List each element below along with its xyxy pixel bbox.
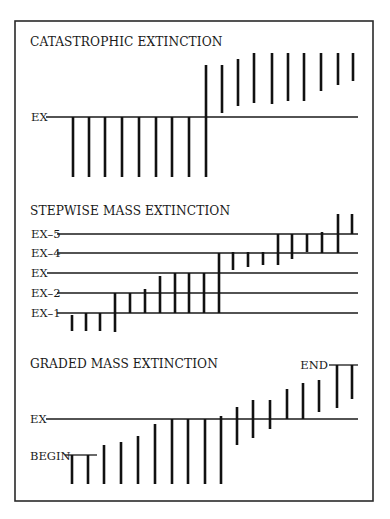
end-marker-label: END	[300, 358, 328, 372]
extinction-patterns-diagram: CATASTROPHIC EXTINCTION EX STEPWISE MASS…	[0, 0, 390, 519]
reference-line-label: EX	[31, 266, 48, 280]
begin-marker-label: BEGIN	[30, 449, 71, 463]
taxon-range-bars	[72, 365, 352, 484]
panel-title: CATASTROPHIC EXTINCTION	[30, 35, 223, 49]
reference-line-label: EX–4	[31, 246, 61, 260]
reference-lines: EXBEGINEND	[30, 358, 358, 463]
reference-line-label: EX–1	[31, 306, 61, 320]
panel-title: GRADED MASS EXTINCTION	[30, 357, 218, 371]
panel-catastrophic-extinction: CATASTROPHIC EXTINCTION EX	[30, 35, 358, 177]
reference-line-label: EX–2	[31, 286, 61, 300]
reference-lines: EX–5EX–4EXEX–2EX–1	[31, 227, 358, 320]
reference-line-label: EX–5	[31, 227, 61, 241]
taxon-range-bars	[73, 53, 353, 177]
panel-title: STEPWISE MASS EXTINCTION	[30, 204, 230, 218]
diagram-frame	[15, 21, 373, 501]
reference-line-label: EX	[31, 110, 48, 124]
reference-line-label: EX	[30, 412, 47, 426]
panel-stepwise-mass-extinction: STEPWISE MASS EXTINCTION EX–5EX–4EXEX–2E…	[30, 204, 358, 332]
reference-lines: EX	[31, 110, 358, 124]
panel-graded-mass-extinction: GRADED MASS EXTINCTION EXBEGINEND	[30, 357, 358, 484]
